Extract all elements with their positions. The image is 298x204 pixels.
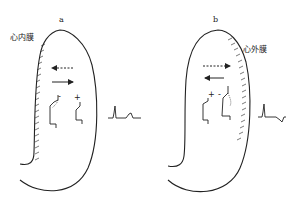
diagram-canvas <box>0 0 298 204</box>
ecg-trace-b <box>258 104 286 122</box>
endocardium-label: 心内膜 <box>10 34 34 42</box>
heart-outline-b <box>168 30 250 192</box>
heart-outline-a <box>20 30 97 191</box>
panel-label-a: a <box>59 15 64 24</box>
sign-minus-a: - <box>58 93 61 101</box>
action-potential-right-b <box>222 86 230 120</box>
ecg-trace-a <box>108 106 141 118</box>
panel-b <box>168 30 286 192</box>
sign-plus-a: + <box>74 94 81 102</box>
action-potential-right-b-dotted <box>228 93 231 106</box>
sign-minus-b: - <box>218 91 221 99</box>
epicardium-label: 心外膜 <box>243 46 267 54</box>
sign-plus-b: + <box>208 91 215 99</box>
action-potential-left-b <box>203 98 208 124</box>
action-potential-left-a <box>50 95 58 128</box>
action-potential-right-a <box>76 102 82 124</box>
endocardium-hatching-a <box>35 44 45 160</box>
panel-label-b: b <box>213 15 218 24</box>
panel-a <box>20 30 141 191</box>
